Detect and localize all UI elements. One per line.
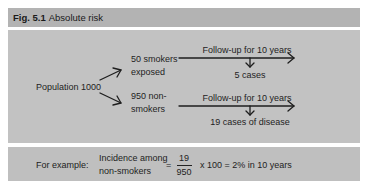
fraction-line bbox=[177, 165, 192, 166]
fraction-denominator: 950 bbox=[176, 167, 191, 178]
example-lead: For example: bbox=[36, 160, 89, 171]
measure-line2: non-smokers bbox=[99, 166, 151, 177]
population-label: Population 1000 bbox=[36, 82, 101, 93]
smokers-outcome: 5 cases bbox=[234, 70, 265, 81]
measure-line1: Incidence among bbox=[99, 153, 168, 164]
smokers-followup-label: Follow-up for 10 years bbox=[202, 45, 291, 56]
figure-label: Fig. 5.1 bbox=[13, 12, 46, 23]
figure-title-bar: Fig. 5.1Absolute risk bbox=[8, 8, 360, 27]
smokers-group-line1: 50 smokers bbox=[131, 54, 178, 65]
smokers-group-line2: exposed bbox=[131, 67, 165, 78]
fraction-numerator: 19 bbox=[179, 153, 189, 164]
non-smokers-group-line2: smokers bbox=[131, 104, 165, 115]
equals-sign: = bbox=[166, 160, 171, 171]
example-result: x 100 = 2% in 10 years bbox=[200, 160, 292, 171]
non-smokers-group-line1: 950 non- bbox=[131, 91, 167, 102]
figure-title-text: Absolute risk bbox=[49, 12, 103, 23]
figure-title: Fig. 5.1Absolute risk bbox=[13, 12, 103, 23]
non-smokers-outcome: 19 cases of disease bbox=[210, 117, 290, 128]
non-smokers-followup-label: Follow-up for 10 years bbox=[202, 93, 291, 104]
